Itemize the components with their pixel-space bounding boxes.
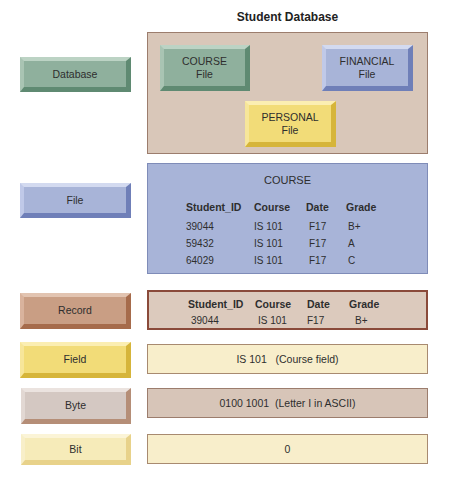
cell: IS 101 [254, 235, 306, 252]
financial-file-name: FINANCIAL [340, 55, 395, 68]
level-record: Record [20, 293, 131, 329]
level-database: Database [20, 57, 131, 92]
table-row: 59432 IS 101 F17 A [186, 235, 376, 252]
record-panel: Student_ID Course Date Grade 39044 IS 10… [147, 290, 428, 330]
cell: 39044 [188, 312, 255, 328]
level-field: Field [20, 342, 131, 378]
bit-text: 0 [148, 435, 427, 463]
record-table: Student_ID Course Date Grade 39044 IS 10… [188, 295, 379, 328]
col-date: Date [307, 295, 349, 312]
level-bit: Bit [21, 434, 131, 465]
bit-panel: 0 [147, 434, 428, 464]
col-course: Course [254, 196, 306, 218]
personal-file-suffix: File [282, 124, 299, 137]
table-header-row: Student_ID Course Date Grade [186, 196, 376, 218]
col-student-id: Student_ID [186, 196, 254, 218]
table-row: 64029 IS 101 F17 C [186, 252, 376, 269]
cell: 39044 [186, 218, 254, 235]
col-student-id: Student_ID [188, 295, 255, 312]
byte-text: 0100 1001 (Letter I in ASCII) [148, 389, 427, 417]
course-table: Student_ID Course Date Grade 39044 IS 10… [186, 196, 376, 269]
byte-panel: 0100 1001 (Letter I in ASCII) [147, 388, 428, 418]
cell: C [346, 252, 376, 269]
col-grade: Grade [346, 196, 376, 218]
course-file-box: COURSE File [160, 45, 250, 91]
financial-file-box: FINANCIAL File [322, 45, 413, 91]
table-row: 39044 IS 101 F17 B+ [186, 218, 376, 235]
cell: 59432 [186, 235, 254, 252]
financial-file-suffix: File [359, 68, 376, 81]
level-file: File [20, 183, 131, 218]
cell: F17 [306, 218, 346, 235]
col-grade: Grade [349, 295, 379, 312]
col-course: Course [255, 295, 307, 312]
cell: F17 [307, 312, 349, 328]
record-row: 39044 IS 101 F17 B+ [188, 312, 379, 328]
personal-file-box: PERSONAL File [245, 101, 336, 147]
field-panel: IS 101 (Course field) [147, 344, 428, 374]
file-panel-title: COURSE [148, 174, 427, 186]
cell: B+ [349, 312, 379, 328]
cell: 64029 [186, 252, 254, 269]
cell: A [346, 235, 376, 252]
course-file-name: COURSE [182, 55, 227, 68]
record-header-row: Student_ID Course Date Grade [188, 295, 379, 312]
cell: IS 101 [254, 252, 306, 269]
cell: IS 101 [254, 218, 306, 235]
diagram-title: Student Database [147, 10, 428, 24]
cell: F17 [306, 252, 346, 269]
personal-file-name: PERSONAL [261, 111, 318, 124]
level-byte: Byte [21, 388, 131, 424]
cell: IS 101 [255, 312, 307, 328]
database-panel: COURSE File FINANCIAL File PERSONAL File [147, 32, 428, 154]
course-file-suffix: File [196, 68, 213, 81]
col-date: Date [306, 196, 346, 218]
cell: B+ [346, 218, 376, 235]
cell: F17 [306, 235, 346, 252]
field-text: IS 101 (Course field) [148, 345, 427, 373]
file-panel: COURSE Student_ID Course Date Grade 3904… [147, 163, 428, 274]
